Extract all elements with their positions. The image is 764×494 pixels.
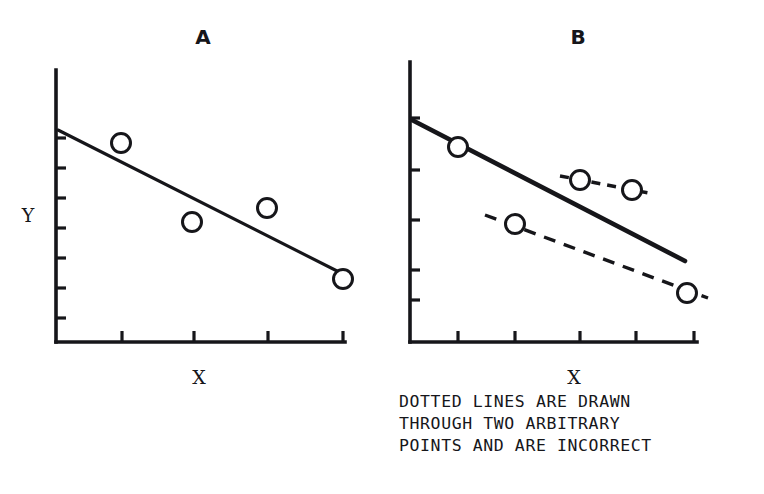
caption-line-3: POINTS AND ARE INCORRECT (399, 436, 652, 455)
panel-b-data-point-4 (506, 215, 525, 234)
panel-b-data-point-3 (623, 181, 642, 200)
caption-line-1: DOTTED LINES ARE DRAWN (399, 392, 631, 411)
panel-a-data-point-3 (258, 199, 277, 218)
panel-a-title: A (195, 25, 211, 49)
panel-a-y-axis-label: Y (21, 204, 35, 226)
figure-caption: DOTTED LINES ARE DRAWNTHROUGH TWO ARBITR… (399, 392, 652, 455)
panel-a-data-point-2 (183, 213, 202, 232)
panel-a-data-point-4 (334, 270, 353, 289)
figure-canvas: AXY BX DOTTED LINES ARE DRAWNTHROUGH TWO… (0, 0, 764, 494)
panel-b-x-axis-label: X (567, 366, 581, 388)
panel-b-title: B (570, 25, 585, 49)
caption-line-2: THROUGH TWO ARBITRARY (399, 414, 620, 433)
panel-b-data-point-2 (571, 171, 590, 190)
panel-b: BX (410, 25, 708, 388)
panel-b-data-point-5 (678, 284, 697, 303)
panel-a-data-point-1 (112, 134, 131, 153)
panel-a-regression-line (58, 130, 345, 275)
panel-a: AXY (21, 25, 353, 388)
figure-root: AXY BX DOTTED LINES ARE DRAWNTHROUGH TWO… (0, 0, 764, 494)
panel-a-x-axis-label: X (192, 366, 206, 388)
panel-b-data-point-1 (449, 138, 468, 157)
